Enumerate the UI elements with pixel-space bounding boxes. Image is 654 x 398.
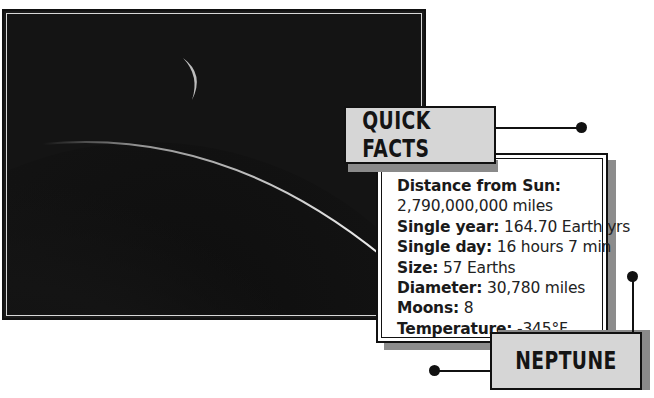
planet-name: NEPTUNE [515,347,616,375]
fact-day: Single day: 16 hours 7 min [397,237,607,257]
connector-dot-icon [429,365,440,376]
fact-distance: Distance from Sun: [397,176,607,196]
fact-distance-value: 2,790,000,000 miles [397,196,607,216]
fact-diameter: Diameter: 30,780 miles [397,278,607,298]
connector-line [632,278,634,332]
connector-line [437,370,490,372]
fact-size: Size: 57 Earths [397,258,607,278]
fact-moons: Moons: 8 [397,298,607,318]
neptune-tag: NEPTUNE [490,332,642,390]
quick-facts-title: QUICK FACTS [362,107,477,163]
fact-year: Single year: 164.70 Earth yrs [397,217,607,237]
quick-facts-tag: QUICK FACTS [344,106,496,164]
connector-line [496,127,578,129]
facts-list: Distance from Sun: 2,790,000,000 miles S… [397,176,607,339]
connector-dot-icon [627,271,638,282]
connector-dot-icon [576,122,587,133]
